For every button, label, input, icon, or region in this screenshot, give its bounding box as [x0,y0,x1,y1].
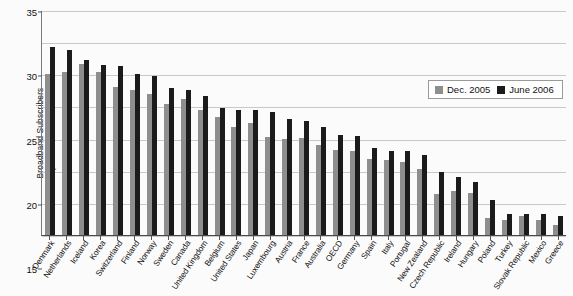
x-axis-label-cell: Australia [312,238,329,296]
plot-area: 05101520253035 Dec. 2005 June 2006 [41,11,566,236]
bar [372,148,377,235]
bar [253,110,258,235]
legend-item-dec-2005: Dec. 2005 [435,84,490,95]
bar [355,136,360,235]
bar [118,66,123,235]
bar [152,76,157,235]
bar-group [515,11,532,235]
bar [321,127,326,235]
y-axis-tick-label-25: 25 [26,135,37,146]
bar [439,172,444,235]
bar-group [380,11,397,235]
bar [541,214,546,235]
bar-series-container [42,11,566,235]
bar-group [228,11,245,235]
bar-group [532,11,549,235]
bar-group [431,11,448,235]
bar-group [397,11,414,235]
x-axis-label-cell: Luxembourg [261,238,278,296]
broadband-subscribers-bar-chart: Broadband Subscribers per 100 inhabitant… [0,0,573,296]
bar [558,216,563,235]
x-axis-label-cell: Hungary [464,238,481,296]
bar [405,151,410,235]
y-axis-tick-label-35: 35 [26,7,37,18]
y-axis-tick-label-20: 20 [26,199,37,210]
x-axis-label-cell: Spain [363,238,380,296]
x-axis-label-cell: United Kingdom [193,238,210,296]
bar [389,151,394,235]
x-axis-label-cell: Greece [549,238,566,296]
bar-group [245,11,262,235]
bar-group [42,11,59,235]
bar [67,50,72,235]
legend-item-june-2006: June 2006 [497,84,553,95]
x-axis-label-cell: Germany [346,238,363,296]
bar-group [194,11,211,235]
bar [473,182,478,235]
bar [84,60,89,236]
bar [304,121,309,235]
bar-group [363,11,380,235]
bar [422,155,427,235]
bar [524,214,529,235]
bar-group [549,11,566,235]
x-axis-tick-label: Italy [380,239,396,256]
bar-group [346,11,363,235]
bar-group [329,11,346,235]
bar [490,200,495,235]
bar-group [160,11,177,235]
bar [236,110,241,235]
bar [507,214,512,235]
bar-group [127,11,144,235]
bar-group [482,11,499,235]
bar-group [211,11,228,235]
bar-group [76,11,93,235]
legend-label-june-2006: June 2006 [509,84,553,95]
x-axis-label-cell: Slovak Republic [515,238,532,296]
bar-group [279,11,296,235]
bar [287,119,292,235]
x-axis-label-cell: Czech Republic [431,238,448,296]
x-axis-label-cell: Iceland [75,238,92,296]
bar-group [93,11,110,235]
bar-group [498,11,515,235]
bar-group [110,11,127,235]
x-axis-label-cell: United States [227,238,244,296]
legend-label-dec-2005: Dec. 2005 [447,84,490,95]
bar-group [414,11,431,235]
bar-group [465,11,482,235]
bar-group [59,11,76,235]
chart-legend: Dec. 2005 June 2006 [428,80,563,99]
y-axis-tick-label-30: 30 [26,71,37,82]
bar-group [296,11,313,235]
bar-group [177,11,194,235]
x-axis-labels: DenmarkNetherlandsIcelandKoreaSwitzerlan… [41,238,566,296]
bar [186,90,191,235]
bar [270,112,275,235]
x-axis-tick-label: Spain [360,239,379,261]
bar [135,74,140,235]
bar-group [313,11,330,235]
bar-group [143,11,160,235]
bar-group [262,11,279,235]
x-axis-label-cell: Mexico [532,238,549,296]
legend-swatch-dec-2005-icon [435,86,443,94]
bar [456,177,461,235]
bar [50,47,55,235]
bar [169,88,174,235]
bar [220,108,225,235]
bar-group [448,11,465,235]
x-axis-label-cell: Austria [278,238,295,296]
x-axis-label-cell: Switzerland [109,238,126,296]
x-axis-label-cell: Netherlands [58,238,75,296]
bar [203,96,208,235]
bar [101,65,106,235]
x-axis-label-cell: Finland [126,238,143,296]
legend-swatch-june-2006-icon [497,86,505,94]
bar [338,135,343,235]
